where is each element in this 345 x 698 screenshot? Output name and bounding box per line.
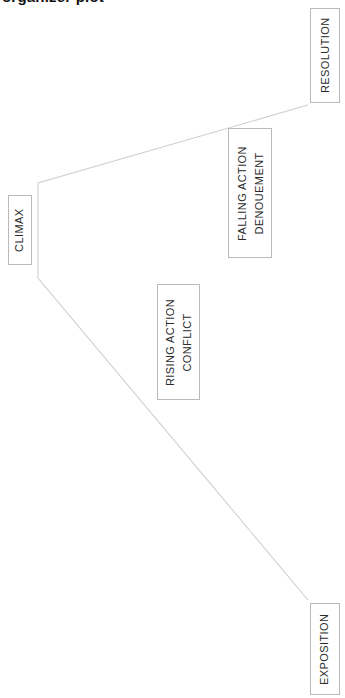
stage-label-group-rising-action: RISING ACTION CONFLICT (162, 298, 195, 385)
stage-box-rising-action[interactable]: RISING ACTION CONFLICT (157, 284, 200, 400)
stage-label-exposition: EXPOSITION (319, 613, 331, 684)
stage-box-resolution[interactable]: RESOLUTION (310, 8, 340, 103)
stage-box-falling-action[interactable]: FALLING ACTION DENOUEMENT (228, 128, 272, 258)
stage-box-exposition[interactable]: EXPOSITION (310, 603, 340, 695)
stage-label-group-climax: CLIMAX (12, 208, 29, 251)
stage-sublabel-denouement: DENOUEMENT (250, 146, 267, 241)
stage-label-group-exposition: EXPOSITION (317, 613, 334, 684)
stage-label-group-falling-action: FALLING ACTION DENOUEMENT (234, 146, 267, 241)
stage-sublabel-conflict: CONFLICT (179, 298, 196, 385)
stage-label-climax: CLIMAX (14, 208, 26, 251)
stage-label-falling-action: FALLING ACTION (236, 146, 248, 241)
plot-diagram-canvas: organizer plot RESOLUTION FALLING ACTION… (0, 0, 345, 698)
stage-box-climax[interactable]: CLIMAX (8, 195, 32, 265)
stage-label-resolution: RESOLUTION (319, 18, 331, 94)
stage-label-rising-action: RISING ACTION (164, 298, 176, 385)
stage-label-group-resolution: RESOLUTION (317, 18, 334, 94)
